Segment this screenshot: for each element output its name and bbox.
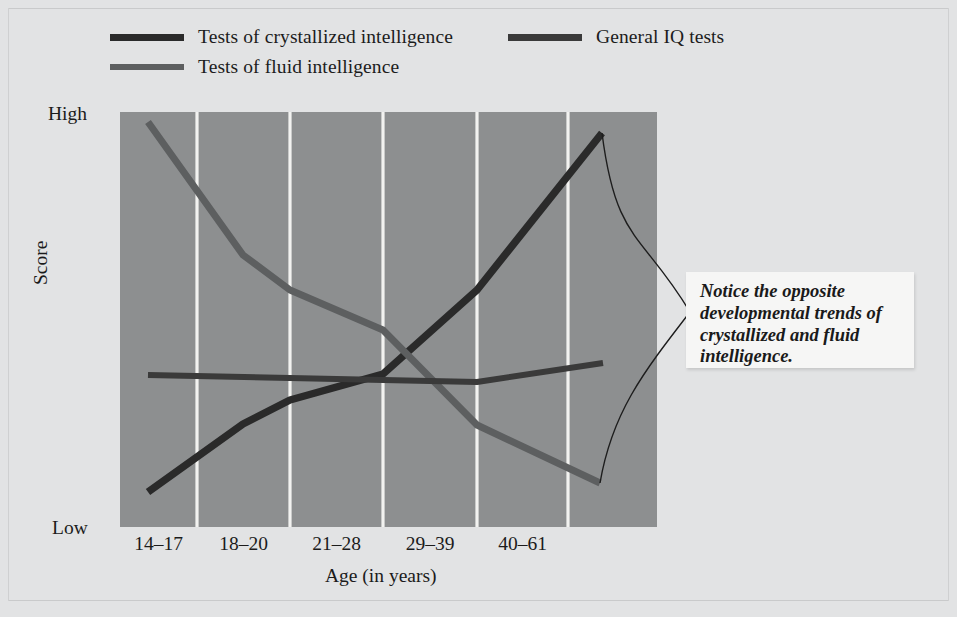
x-tick-label-3: 21–28: [297, 533, 377, 555]
figure-border-top: [8, 8, 949, 9]
x-tick-label-5: 40–61: [483, 533, 563, 555]
legend-item-general-iq: General IQ tests: [508, 26, 724, 48]
legend-swatch-general-iq: [508, 34, 582, 41]
y-axis-low-label: Low: [52, 517, 88, 539]
legend-swatch-fluid: [110, 64, 184, 70]
gridlines: [197, 112, 568, 527]
x-tick-label-2: 18–20: [204, 533, 284, 555]
legend-swatch-crystallized: [110, 34, 184, 41]
y-axis-high-label: High: [48, 103, 87, 125]
y-axis-title: Score: [30, 241, 52, 285]
series-line-crystallized: [148, 133, 602, 492]
legend-item-fluid: Tests of fluid intelligence: [110, 56, 399, 78]
series-lines: [148, 122, 603, 492]
chart-legend: Tests of crystallized intelligence Tests…: [110, 26, 730, 88]
figure-border-left: [8, 8, 9, 601]
callout-box: Notice the opposite developmental trends…: [686, 272, 914, 368]
callout-text: Notice the opposite developmental trends…: [700, 281, 902, 368]
legend-label-fluid: Tests of fluid intelligence: [198, 56, 399, 78]
x-tick-label-1: 14–17: [119, 533, 199, 555]
legend-label-crystallized: Tests of crystallized intelligence: [198, 26, 453, 48]
x-tick-label-4: 29–39: [390, 533, 470, 555]
figure-panel: Tests of crystallized intelligence Tests…: [0, 0, 957, 617]
series-line-fluid: [148, 122, 600, 483]
legend-label-general-iq: General IQ tests: [596, 26, 724, 48]
figure-border-right: [948, 8, 949, 601]
legend-item-crystallized: Tests of crystallized intelligence: [110, 26, 453, 48]
x-axis-title: Age (in years): [325, 565, 437, 587]
figure-border-bottom: [8, 600, 949, 601]
